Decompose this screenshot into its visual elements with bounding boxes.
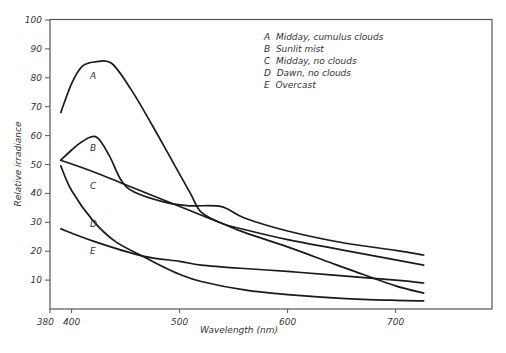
curve-b [61, 136, 424, 255]
legend-item-b: B Sunlit mist [264, 44, 324, 54]
y-tick-label: 20 [31, 246, 43, 256]
y-tick-label: 70 [31, 102, 43, 112]
x-tick-label: 400 [63, 317, 80, 327]
curve-label-c: C [90, 181, 97, 191]
y-axis-title: Relative irradiance [13, 121, 23, 206]
legend-item-a: A Midday, cumulus clouds [263, 32, 384, 42]
x-tick-label: 600 [279, 317, 296, 327]
legend-item-c: C Midday, no clouds [264, 56, 357, 66]
irradiance-chart: 102030405060708090100 380400500600700 A … [0, 0, 506, 353]
y-tick-label: 80 [31, 73, 43, 83]
y-tick-label: 30 [31, 217, 43, 227]
x-tick-label: 380 [37, 317, 54, 327]
x-tick-label: 700 [387, 317, 404, 327]
curve-label-d: D [90, 219, 97, 229]
curve-e [61, 229, 424, 283]
legend-item-d: D Dawn, no clouds [264, 68, 351, 78]
curve-a [61, 61, 424, 265]
x-tick-label: 500 [171, 317, 188, 327]
curve-label-b: B [90, 143, 96, 153]
y-tick-label: 100 [25, 15, 42, 25]
curves [61, 61, 424, 301]
y-tick-label: 90 [31, 44, 43, 54]
y-tick-label: 50 [31, 160, 43, 170]
legend: A Midday, cumulus clouds B Sunlit mist C… [263, 32, 384, 90]
curve-d [61, 166, 424, 301]
legend-item-e: E Overcast [264, 80, 316, 90]
x-axis-title: Wavelength (nm) [200, 325, 278, 335]
y-tick-label: 40 [31, 188, 43, 198]
y-tick-label: 60 [31, 131, 43, 141]
y-tick-label: 10 [31, 275, 43, 285]
curve-label-a: A [89, 71, 96, 81]
y-axis: 102030405060708090100 [25, 15, 50, 285]
curve-c [61, 160, 424, 293]
curve-label-e: E [90, 246, 96, 256]
